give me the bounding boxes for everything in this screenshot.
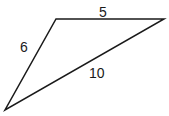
side-label-hypotenuse: 10	[89, 66, 105, 80]
side-label-top: 5	[99, 5, 107, 19]
side-label-left: 6	[20, 40, 28, 54]
triangle-figure	[0, 0, 169, 116]
triangle-shape	[5, 19, 164, 110]
